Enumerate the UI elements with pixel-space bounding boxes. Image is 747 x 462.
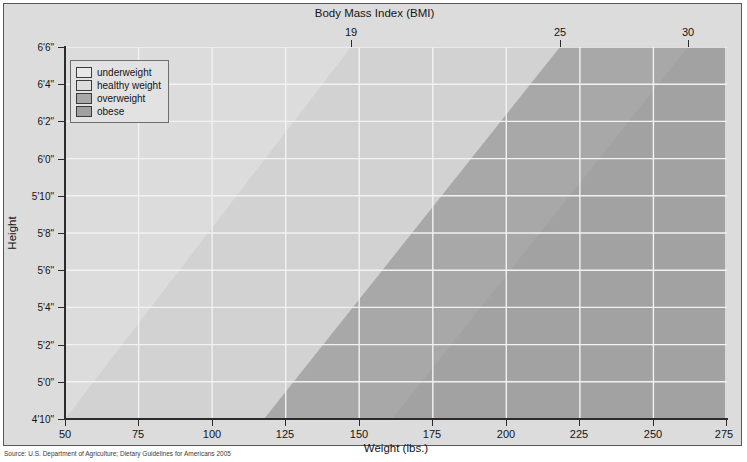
y-tick [58,84,64,85]
bmi-chart-page: Body Mass Index (BMI) [0,0,747,462]
y-axis-line [64,46,66,420]
legend-swatch-icon [76,93,92,104]
legend-item-underweight: underweight [76,66,161,78]
bmi-tick-label: 25 [554,26,566,38]
x-tick [65,420,66,426]
y-tick [58,270,64,271]
x-tick-label: 100 [203,428,221,440]
legend-label: healthy weight [97,80,161,91]
x-tick [212,420,213,426]
bmi-tick-label: 30 [682,26,694,38]
x-tick-label: 125 [276,428,294,440]
y-tick-label: 5'4" [4,302,54,313]
x-tick-label: 150 [350,428,368,440]
x-tick [359,420,360,426]
bmi-tick [688,40,689,47]
y-tick-label: 5'2" [4,340,54,351]
x-tick-label: 275 [715,428,733,440]
x-tick-label: 75 [132,428,144,440]
y-tick-label: 5'0" [4,377,54,388]
x-tick-label: 50 [59,428,71,440]
x-tick [285,420,286,426]
legend-label: obese [97,106,124,117]
bmi-tick [351,40,352,47]
bmi-tick [560,40,561,47]
legend-swatch-icon [76,67,92,78]
chart-legend: underweight healthy weight overweight ob… [70,60,169,123]
x-tick-label: 200 [497,428,515,440]
y-tick-label: 5'6" [4,265,54,276]
x-tick [653,420,654,426]
y-tick [58,159,64,160]
legend-swatch-icon [76,80,92,91]
legend-item-obese: obese [76,105,161,117]
chart-title-top: Body Mass Index (BMI) [1,7,747,19]
y-tick [58,307,64,308]
y-tick-label: 6'2" [4,116,54,127]
x-tick-label: 175 [423,428,441,440]
x-tick [579,420,580,426]
y-tick-label: 6'0" [4,154,54,165]
chart-canvas-frame: Body Mass Index (BMI) [3,3,742,446]
y-tick-label: 4'10" [4,414,54,425]
legend-swatch-icon [76,106,92,117]
x-tick-label: 225 [570,428,588,440]
y-tick [58,345,64,346]
x-axis-line [64,418,728,420]
y-tick [58,121,64,122]
y-tick [58,419,64,420]
y-tick-label: 5'10" [4,191,54,202]
legend-label: overweight [97,93,145,104]
y-tick [58,196,64,197]
legend-item-healthy-weight: healthy weight [76,79,161,91]
y-axis-label: Height [6,216,18,249]
x-tick [726,420,727,426]
source-note: Source: U.S. Department of Agriculture; … [4,450,231,457]
bmi-tick-label: 19 [345,26,357,38]
x-tick [432,420,433,426]
legend-label: underweight [97,67,151,78]
x-tick-label: 250 [644,428,662,440]
y-tick [58,233,64,234]
x-tick [138,420,139,426]
y-tick-label: 6'6" [4,42,54,53]
x-tick [506,420,507,426]
y-tick [58,47,64,48]
y-tick [58,382,64,383]
legend-item-overweight: overweight [76,92,161,104]
y-tick-label: 6'4" [4,79,54,90]
